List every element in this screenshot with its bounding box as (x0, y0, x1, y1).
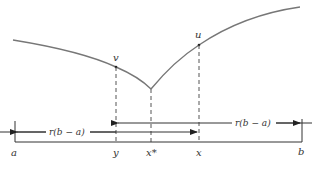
left-span-label: r(b − a) (49, 127, 85, 137)
axis-label-y: y (112, 147, 119, 158)
label-u: u (195, 29, 201, 40)
axis-label-a: a (11, 147, 17, 158)
axis-label-x: x (196, 147, 202, 158)
right-span-label: r(b − a) (235, 118, 271, 128)
label-v: v (113, 52, 119, 63)
golden-section-diagram: v u r(b − a) r(b − a) a y x* x b (0, 0, 314, 172)
function-curve-right (151, 7, 300, 89)
axis-label-x-star: x* (146, 147, 157, 158)
function-curve-left (13, 40, 151, 89)
axis-label-b: b (298, 146, 304, 157)
